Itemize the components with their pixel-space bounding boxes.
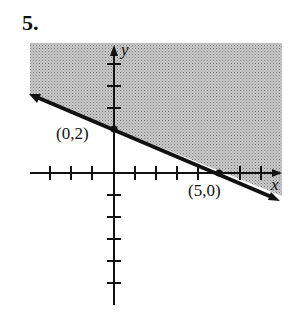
point-0-2 <box>111 126 118 133</box>
y-axis-label: y <box>121 40 129 60</box>
point-5-0 <box>216 170 223 177</box>
point-label-0-2: (0,2) <box>56 124 89 144</box>
point-label-5-0: (5,0) <box>188 181 221 201</box>
x-axis <box>30 166 278 180</box>
inequality-graph <box>0 0 294 322</box>
x-axis-label: x <box>271 175 279 195</box>
